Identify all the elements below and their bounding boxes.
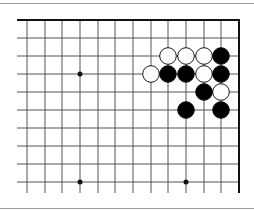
star-point-icon xyxy=(184,180,189,185)
black-stone[interactable] xyxy=(178,66,195,83)
black-stone[interactable] xyxy=(196,84,213,101)
black-stone[interactable] xyxy=(213,102,230,119)
white-stone[interactable] xyxy=(196,48,213,65)
black-stone[interactable] xyxy=(160,66,177,83)
white-stone[interactable] xyxy=(213,84,230,101)
go-board[interactable] xyxy=(0,0,254,210)
white-stone[interactable] xyxy=(143,66,160,83)
star-point-icon xyxy=(78,72,83,77)
black-stone[interactable] xyxy=(213,66,230,83)
white-stone[interactable] xyxy=(160,48,177,65)
bottom-separator xyxy=(0,208,254,209)
white-stone[interactable] xyxy=(178,48,195,65)
star-point-icon xyxy=(78,180,83,185)
white-stone[interactable] xyxy=(196,66,213,83)
black-stone[interactable] xyxy=(178,102,195,119)
black-stone[interactable] xyxy=(213,48,230,65)
